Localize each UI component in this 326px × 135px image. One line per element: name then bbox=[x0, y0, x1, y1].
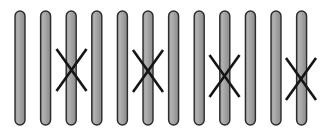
chromatid-bar bbox=[15, 11, 25, 125]
chromatid-bar bbox=[271, 11, 281, 125]
chromatid-bar bbox=[92, 11, 102, 125]
chromosome-crossover-figure bbox=[0, 0, 326, 135]
chromatid-bar bbox=[220, 11, 230, 125]
chromatid-bar bbox=[245, 11, 255, 125]
chromatid-bar bbox=[297, 11, 307, 125]
chromatid-bar bbox=[117, 11, 127, 125]
figure-canvas bbox=[0, 0, 326, 135]
chromatid-bar bbox=[169, 11, 179, 125]
chromatid-bar bbox=[41, 11, 51, 125]
chromatid-bar bbox=[194, 11, 204, 125]
